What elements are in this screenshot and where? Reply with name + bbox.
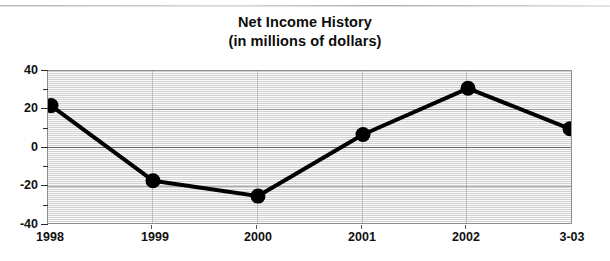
data-point-2002 (461, 81, 476, 96)
x-axis-label-3-03: 3-03 (540, 230, 604, 244)
x-axis-label-1999: 1999 (123, 230, 187, 244)
x-axis-label-1998: 1998 (18, 230, 82, 244)
x-axis-label-2000: 2000 (226, 230, 290, 244)
chart-figure: Net Income History (in millions of dolla… (0, 0, 610, 261)
y-tick-0 (41, 147, 48, 148)
plot-area (47, 70, 572, 224)
x-tick-1 (151, 225, 152, 229)
chart-subtitle: (in millions of dollars) (0, 32, 610, 51)
y-tick-10 (43, 128, 48, 129)
y-tick-30 (43, 89, 48, 90)
data-point-2001 (356, 127, 371, 142)
series-line (51, 88, 570, 196)
y-axis-label-20: 20 (2, 102, 38, 114)
y-tick-20 (41, 108, 48, 109)
x-axis-label-2001: 2001 (330, 230, 394, 244)
x-tick-2 (256, 225, 257, 229)
y-tick-minus-20 (41, 185, 48, 186)
x-tick-4 (465, 225, 466, 229)
data-point-3-03 (563, 121, 573, 136)
data-series-net-income (48, 71, 572, 224)
y-tick-40 (41, 70, 48, 71)
y-tick-minus-10 (43, 166, 48, 167)
y-axis-label-0: 0 (2, 141, 38, 153)
x-tick-3 (361, 225, 362, 229)
y-axis-label-minus-40: -40 (2, 218, 38, 230)
y-tick-minus-40 (41, 224, 48, 225)
x-axis-label-2002: 2002 (434, 230, 498, 244)
data-point-1999 (146, 173, 161, 188)
chart-title: Net Income History (0, 13, 610, 32)
data-point-2000 (251, 189, 266, 204)
y-axis-label-minus-20: -20 (2, 179, 38, 191)
scan-artifact-line-secondary (0, 6, 610, 7)
y-axis-label-40: 40 (2, 64, 38, 76)
chart-title-block: Net Income History (in millions of dolla… (0, 13, 610, 51)
y-tick-minus-30 (43, 205, 48, 206)
